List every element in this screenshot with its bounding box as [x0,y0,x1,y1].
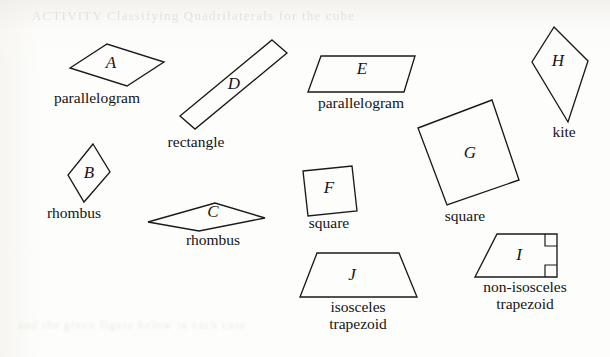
shape-label-d: D [227,74,241,93]
shape-label-e: E [356,59,368,78]
shape-label-b: B [84,163,95,182]
shape-caption-h: kite [552,124,575,141]
shape-e: E [308,56,415,92]
shape-caption-f: square [309,215,349,232]
shape-caption-g: square [445,208,485,225]
shape-label-a: A [105,53,117,72]
shape-outline-a [70,44,164,86]
shape-caption-c: rhombus [186,232,240,249]
shape-label-f: F [323,178,335,197]
shape-label-i: I [515,245,523,264]
right-angle-mark-i-1 [545,234,557,246]
shape-j: J [300,253,417,297]
shape-a: A [70,44,164,86]
shape-label-c: C [207,202,219,221]
shape-label-g: G [464,143,476,162]
shape-f: F [303,166,357,216]
right-angle-mark-i-2 [545,265,557,277]
shape-d: D [180,40,287,129]
shape-caption-a: parallelogram [54,90,140,107]
shape-outline-h [532,27,588,122]
shape-b: B [68,144,110,202]
shape-caption-b: rhombus [47,205,101,222]
shape-h: H [532,27,588,122]
shape-caption-e: parallelogram [318,95,404,112]
shape-i: I [475,234,557,277]
shape-caption-j: isosceles trapezoid [329,299,387,332]
shape-g: G [418,100,519,205]
shape-c: C [148,202,265,231]
shape-caption-i: non-isosceles trapezoid [483,279,567,312]
shape-label-h: H [551,51,566,70]
figure-page: ACTIVITY Classifying Quadrilaterals for … [0,0,610,357]
shape-outline-j [300,253,417,297]
shape-caption-d: rectangle [168,134,225,151]
shape-label-j: J [348,265,357,284]
